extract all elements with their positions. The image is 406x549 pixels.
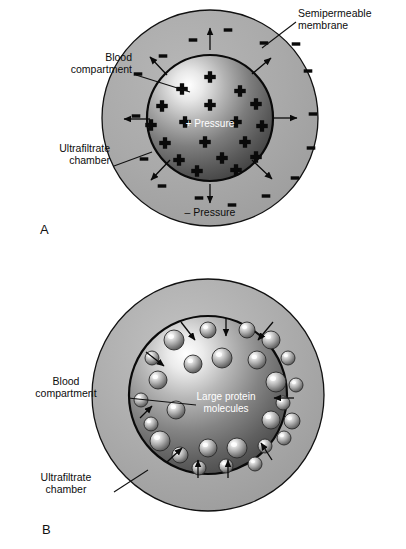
protein-molecule	[184, 355, 202, 373]
protein-molecule	[258, 439, 272, 453]
ultrafiltrate-chamber-label: Ultrafiltratechamber	[41, 471, 92, 495]
negative-pressure-label-line-0: – Pressure	[185, 206, 236, 218]
protein-molecule	[192, 461, 206, 475]
anion-minus-mark	[309, 112, 318, 115]
blood-compartment-label-line-0: Blood	[53, 375, 80, 387]
positive-pressure-label-line-0: + Pressure	[186, 118, 235, 129]
ultrafiltrate-chamber-label-line-1: chamber	[69, 154, 110, 166]
ultrafiltrate-chamber-label-line-0: Ultrafiltrate	[41, 471, 92, 483]
large-protein-molecules-label-line-1: molecules	[203, 403, 248, 414]
anion-minus-mark	[307, 146, 316, 149]
anion-minus-mark	[132, 114, 141, 117]
protein-molecule	[144, 417, 158, 431]
anion-minus-mark	[158, 184, 167, 187]
panel-letter-a: A	[40, 222, 49, 237]
panel-letter-b: B	[42, 522, 51, 537]
anion-minus-mark	[140, 157, 149, 160]
protein-molecule	[200, 322, 216, 338]
ultrafiltration-figure: SemipermeablemembraneBloodcompartmentUlt…	[0, 0, 406, 549]
protein-molecule	[284, 413, 300, 429]
protein-molecule	[248, 351, 266, 369]
protein-molecule	[150, 431, 170, 451]
blood-compartment-label-line-1: compartment	[35, 387, 96, 399]
semipermeable-membrane-label-line-0: Semipermeable	[298, 7, 372, 19]
protein-molecule	[289, 378, 303, 392]
ultrafiltrate-chamber-label-line-1: chamber	[46, 483, 87, 495]
protein-molecule	[277, 431, 291, 445]
large-protein-molecules-label-line-0: Large protein	[197, 391, 256, 402]
large-protein-molecules-label: Large proteinmolecules	[197, 391, 256, 414]
anion-minus-mark	[291, 176, 300, 179]
negative-pressure-label: – Pressure	[185, 206, 236, 218]
anion-minus-mark	[224, 28, 233, 31]
anion-minus-mark	[159, 54, 168, 57]
blood-compartment-label-line-0: Blood	[105, 51, 132, 63]
protein-molecule	[227, 438, 247, 458]
protein-molecule	[248, 457, 262, 471]
protein-molecule	[239, 322, 255, 338]
anion-minus-mark	[195, 196, 204, 199]
anion-minus-mark	[262, 194, 271, 197]
protein-molecule	[281, 351, 295, 365]
protein-molecule	[219, 459, 233, 473]
positive-pressure-label: + Pressure	[186, 118, 235, 129]
anion-minus-mark	[292, 42, 301, 45]
anion-minus-mark	[304, 69, 313, 72]
anion-minus-mark	[189, 38, 198, 41]
protein-molecule	[199, 439, 217, 457]
ultrafiltrate-chamber-label-line-0: Ultrafiltrate	[59, 142, 110, 154]
protein-molecule	[164, 330, 184, 350]
semipermeable-membrane-label-line-1: membrane	[298, 19, 348, 31]
protein-molecule	[212, 348, 232, 368]
protein-molecule	[262, 411, 280, 429]
protein-molecule	[266, 372, 286, 392]
protein-molecule	[262, 331, 280, 349]
protein-molecule	[149, 371, 167, 389]
blood-compartment-label-line-1: compartment	[71, 63, 132, 75]
